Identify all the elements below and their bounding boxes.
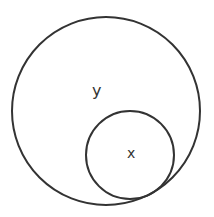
outer-circle-y [12, 17, 200, 205]
venn-diagram: y x [0, 0, 214, 217]
label-x: x [127, 145, 135, 161]
label-y: y [92, 81, 101, 100]
